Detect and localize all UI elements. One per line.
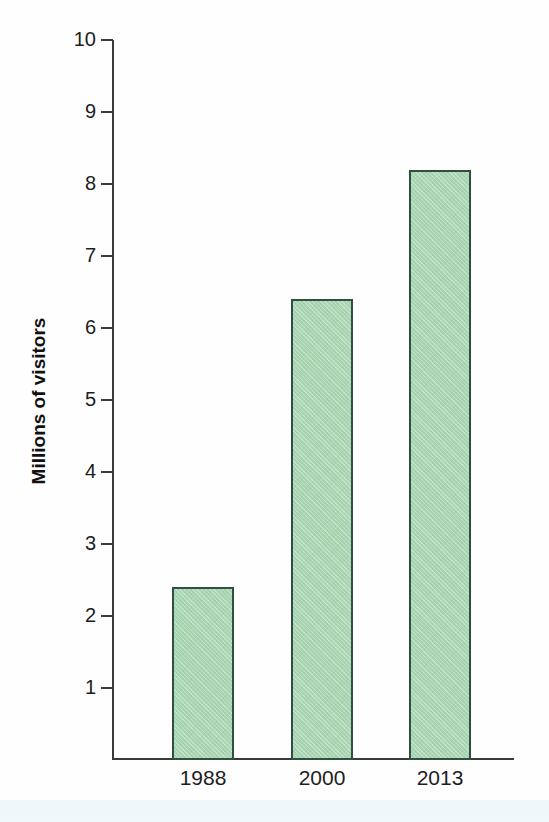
y-tick-mark — [101, 183, 113, 185]
y-axis-title: Millions of visitors — [28, 286, 50, 516]
y-tick-mark — [101, 255, 113, 257]
y-tick-label: 7 — [56, 245, 96, 265]
y-tick-mark — [101, 543, 113, 545]
bar-texture — [174, 589, 232, 758]
x-tick-label-1988: 1988 — [143, 766, 263, 790]
y-tick-mark — [101, 399, 113, 401]
y-tick-mark — [101, 687, 113, 689]
y-tick-mark — [101, 615, 113, 617]
y-axis-tick-labels: 10987654321 — [48, 0, 96, 822]
bar-2013 — [409, 170, 471, 760]
scan-artifact-band — [0, 800, 549, 822]
y-tick-mark — [101, 327, 113, 329]
y-tick-label: 4 — [56, 461, 96, 481]
y-tick-label: 6 — [56, 317, 96, 337]
y-tick-mark — [101, 471, 113, 473]
bar-chart-figure: Millions of visitors 10987654321 1988200… — [0, 0, 549, 822]
bar-texture — [293, 301, 351, 758]
bar-1988 — [172, 587, 234, 760]
x-tick-label-2000: 2000 — [262, 766, 382, 790]
y-tick-label: 5 — [56, 389, 96, 409]
bar-2000 — [291, 299, 353, 760]
bar-texture — [411, 172, 469, 758]
y-tick-label: 3 — [56, 533, 96, 553]
x-tick-label-2013: 2013 — [380, 766, 500, 790]
y-tick-label: 2 — [56, 605, 96, 625]
y-tick-label: 8 — [56, 173, 96, 193]
y-tick-label: 9 — [56, 101, 96, 121]
y-tick-label: 1 — [56, 677, 96, 697]
y-tick-mark — [101, 39, 113, 41]
y-tick-mark — [101, 111, 113, 113]
y-tick-label: 10 — [56, 29, 96, 49]
